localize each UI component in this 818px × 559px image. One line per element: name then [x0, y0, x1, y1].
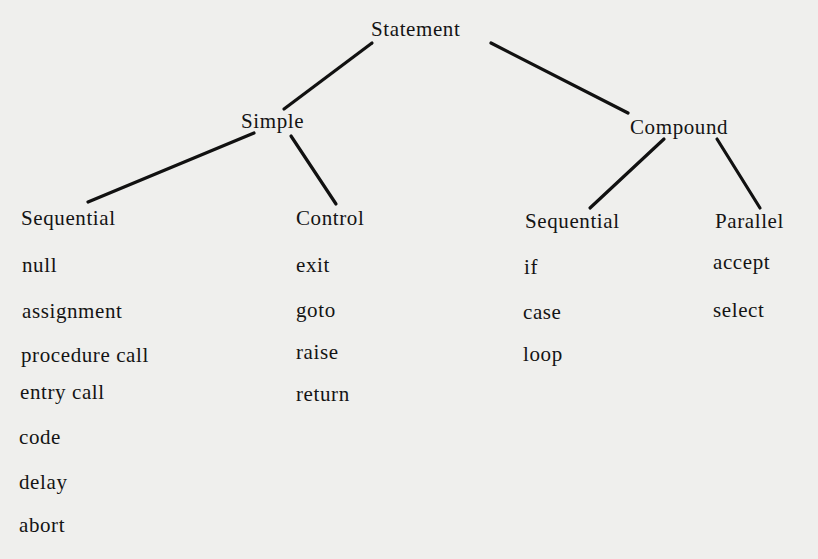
node-simple-control: Control [296, 208, 364, 229]
leaf-loop: loop [523, 344, 563, 365]
leaf-procedure-call: procedure call [21, 345, 149, 366]
leaf-raise: raise [296, 342, 339, 363]
node-simple: Simple [241, 111, 304, 132]
edge-simple-sequential [88, 133, 254, 202]
edge-statement-simple [284, 43, 372, 109]
leaf-accept: accept [713, 252, 770, 273]
leaf-select: select [713, 300, 764, 321]
tree-edges [0, 0, 818, 559]
node-compound-parallel: Parallel [715, 211, 784, 232]
leaf-return: return [296, 384, 350, 405]
edge-compound-sequential [590, 139, 664, 208]
node-compound-sequential: Sequential [525, 211, 620, 232]
edge-statement-compound [491, 43, 628, 113]
edge-simple-control [291, 136, 336, 204]
node-compound: Compound [630, 117, 728, 138]
node-simple-sequential: Sequential [21, 208, 116, 229]
leaf-null: null [22, 255, 57, 276]
edge-compound-parallel [717, 139, 760, 208]
leaf-case: case [523, 302, 562, 323]
statement-tree-diagram: Statement Simple Compound Sequential Con… [0, 0, 818, 559]
leaf-if: if [524, 257, 538, 278]
leaf-goto: goto [296, 300, 336, 321]
leaf-assignment: assignment [22, 301, 123, 322]
leaf-exit: exit [296, 255, 330, 276]
leaf-delay: delay [19, 472, 67, 493]
leaf-abort: abort [19, 515, 65, 536]
leaf-code: code [19, 427, 61, 448]
node-statement: Statement [371, 19, 460, 40]
leaf-entry-call: entry call [20, 382, 105, 403]
